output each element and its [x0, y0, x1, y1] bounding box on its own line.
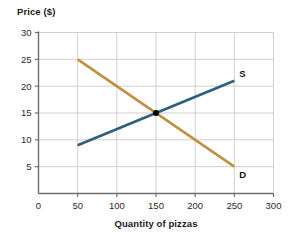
x-tick-label: 0: [36, 200, 41, 211]
chart-plot-area: 51015202530 050100150200250300 SD: [0, 0, 290, 236]
x-tick-label: 300: [266, 200, 282, 211]
series-end-labels: SD: [239, 68, 246, 180]
y-tick-label: 20: [21, 81, 32, 92]
equilibrium-point: [153, 110, 159, 116]
y-tick-label: 5: [26, 161, 31, 172]
x-axis-title: Quantity of pizzas: [38, 218, 274, 229]
x-tick-label: 100: [109, 200, 125, 211]
x-tick-label: 150: [148, 200, 164, 211]
series-label-d: D: [239, 169, 246, 180]
x-tick-label: 50: [72, 200, 83, 211]
series-label-s: S: [239, 68, 245, 79]
x-tick-label: 200: [187, 200, 203, 211]
chart-annotations: [153, 110, 159, 116]
y-tick-label: 30: [21, 27, 32, 38]
y-tick-label: 10: [21, 134, 32, 145]
y-tick-label: 25: [21, 54, 32, 65]
x-tick-label: 250: [226, 200, 242, 211]
supply-demand-chart: Price ($) 51015202530 050100150200250300…: [0, 0, 290, 236]
x-axis-tick-labels: 050100150200250300: [36, 200, 282, 211]
y-axis-tick-labels: 51015202530: [21, 27, 32, 172]
y-tick-label: 15: [21, 107, 32, 118]
